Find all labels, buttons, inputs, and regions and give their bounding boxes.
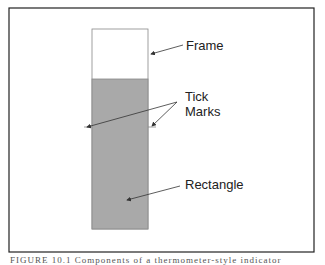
rectangle-label: Rectangle bbox=[185, 177, 244, 192]
tick-label-line1: Tick bbox=[185, 89, 209, 104]
frame-arrow bbox=[151, 45, 183, 54]
tick-label-line2: Marks bbox=[185, 104, 221, 119]
frame-label: Frame bbox=[186, 38, 224, 53]
level-rectangle bbox=[92, 79, 148, 229]
outer-border bbox=[9, 8, 314, 252]
figure-caption: FIGURE 10.1 Components of a thermometer-… bbox=[10, 255, 282, 265]
